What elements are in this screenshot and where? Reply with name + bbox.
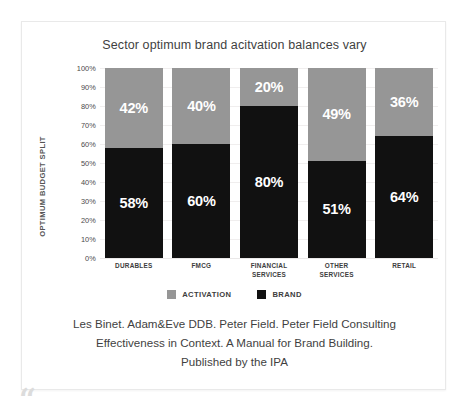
- y-axis-tick-labels: 100%90%80%70%60%50%40%30%20%10%0%: [56, 68, 96, 258]
- bar-group[interactable]: 40%60%: [172, 68, 230, 258]
- y-axis-tick: 40%: [56, 178, 96, 187]
- bar-segment-activation[interactable]: 42%: [105, 68, 163, 148]
- legend-label: BRAND: [272, 290, 301, 299]
- bar-segment-activation[interactable]: 49%: [308, 68, 366, 161]
- y-axis-tick: 0%: [56, 254, 96, 263]
- bar-label-brand: 51%: [322, 202, 350, 217]
- x-axis-label: RETAIL: [370, 262, 438, 271]
- caption-line-2: Effectiveness in Context. A Manual for B…: [38, 334, 431, 353]
- bar-label-activation: 49%: [322, 107, 350, 122]
- legend-item[interactable]: ACTIVATION: [167, 290, 231, 299]
- bar-label-brand: 60%: [187, 194, 215, 209]
- x-axis-label: OTHERSERVICES: [303, 262, 371, 280]
- bar-group[interactable]: 49%51%: [308, 68, 366, 258]
- y-axis-tick: 60%: [56, 140, 96, 149]
- y-axis-tick: 100%: [56, 64, 96, 73]
- bar-label-brand: 80%: [255, 175, 283, 190]
- bar-label-brand: 64%: [390, 190, 418, 205]
- gridline: [100, 258, 438, 259]
- y-axis-tick: 80%: [56, 102, 96, 111]
- bar-label-activation: 42%: [120, 101, 148, 116]
- chart-card: Sector optimum brand acitvation balances…: [21, 21, 446, 390]
- y-axis-tick: 10%: [56, 235, 96, 244]
- caption-line-1: Les Binet. Adam&Eve DDB. Peter Field. Pe…: [38, 315, 431, 334]
- y-axis-tick: 20%: [56, 216, 96, 225]
- quote-mark-icon: “: [19, 385, 36, 415]
- bar-segment-activation[interactable]: 40%: [172, 68, 230, 144]
- x-axis-label: FINANCIALSERVICES: [235, 262, 303, 280]
- y-axis-title: OPTIMUM BUDGET SPLIT: [38, 117, 47, 257]
- bar-group[interactable]: 42%58%: [105, 68, 163, 258]
- x-axis-label: FMCG: [168, 262, 236, 271]
- bar-label-activation: 20%: [255, 80, 283, 95]
- y-axis-tick: 70%: [56, 121, 96, 130]
- caption-line-3: Published by the IPA: [38, 353, 431, 372]
- bar-group[interactable]: 36%64%: [375, 68, 433, 258]
- y-axis-tick: 30%: [56, 197, 96, 206]
- x-axis-label: DURABLES: [100, 262, 168, 271]
- legend-label: ACTIVATION: [182, 290, 231, 299]
- bar-segment-brand[interactable]: 58%: [105, 148, 163, 258]
- legend-swatch-icon: [167, 290, 176, 299]
- y-axis-tick: 50%: [56, 159, 96, 168]
- x-axis-label-line: FINANCIAL: [235, 262, 303, 271]
- source-caption: Les Binet. Adam&Eve DDB. Peter Field. Pe…: [38, 315, 431, 371]
- bar-segment-brand[interactable]: 51%: [308, 161, 366, 258]
- x-axis-label-line: OTHER: [303, 262, 371, 271]
- bar-label-brand: 58%: [120, 196, 148, 211]
- bar-segment-brand[interactable]: 80%: [240, 106, 298, 258]
- bar-label-activation: 40%: [187, 99, 215, 114]
- y-axis-tick: 90%: [56, 83, 96, 92]
- chart-legend: ACTIVATIONBRAND: [22, 290, 447, 299]
- chart-title: Sector optimum brand acitvation balances…: [22, 38, 447, 52]
- bar-group[interactable]: 20%80%: [240, 68, 298, 258]
- bar-segment-brand[interactable]: 64%: [375, 136, 433, 258]
- x-axis-label-line: DURABLES: [100, 262, 168, 271]
- bar-segment-activation[interactable]: 20%: [240, 68, 298, 106]
- bar-label-activation: 36%: [390, 95, 418, 110]
- x-axis-label-line: FMCG: [168, 262, 236, 271]
- legend-item[interactable]: BRAND: [257, 290, 301, 299]
- bar-segment-brand[interactable]: 60%: [172, 144, 230, 258]
- legend-swatch-icon: [257, 290, 266, 299]
- x-axis-label-line: SERVICES: [235, 271, 303, 280]
- x-axis-label-line: SERVICES: [303, 271, 371, 280]
- x-axis-category-labels: DURABLESFMCGFINANCIALSERVICESOTHERSERVIC…: [100, 262, 438, 286]
- bar-segment-activation[interactable]: 36%: [375, 68, 433, 136]
- plot-area: 42%58%40%60%20%80%49%51%36%64%: [100, 68, 438, 258]
- x-axis-label-line: RETAIL: [370, 262, 438, 271]
